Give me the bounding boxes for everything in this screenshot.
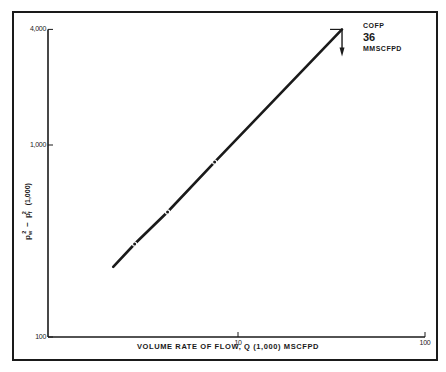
down-arrow-icon <box>340 47 345 56</box>
annotation-line2: 36 <box>363 31 375 43</box>
data-series <box>113 29 342 266</box>
y-tick-label: 4,000 <box>30 25 46 32</box>
ticks: 1001,0004,00010100 <box>30 25 431 346</box>
x-axis-label: VOLUME RATE OF FLOW, Q (1,000) MSCFPD <box>137 342 319 351</box>
y-label-sub-f: f <box>27 211 33 213</box>
data-point-marker <box>213 161 216 164</box>
data-point-marker <box>166 210 169 213</box>
outer-frame <box>13 12 437 360</box>
annotation-line3: MMSCFPD <box>363 45 402 52</box>
data-line <box>113 29 342 266</box>
chart-svg: 1001,0004,00010100 COFP 36 MMSCFPD pw2−p… <box>0 0 446 372</box>
y-label-minus: − <box>23 222 32 227</box>
chart-container: 1001,0004,00010100 COFP 36 MMSCFPD pw2−p… <box>0 0 446 372</box>
data-point-marker <box>133 243 136 246</box>
x-tick-label: 100 <box>420 339 431 346</box>
y-label-sub-w: w <box>27 230 33 236</box>
y-label-units: (1,000) <box>24 183 32 205</box>
axes <box>48 29 425 337</box>
y-label-sup1: 2 <box>21 231 27 234</box>
y-label-sup2: 2 <box>21 211 27 214</box>
y-axis-label: pw2−pf2(1,000) <box>21 183 33 240</box>
svg-text:pw2−pf2(1,000): pw2−pf2(1,000) <box>21 183 33 240</box>
y-tick-label: 1,000 <box>30 141 46 148</box>
annotation-line1: COFP <box>363 22 384 29</box>
cofp-annotation: COFP 36 MMSCFPD <box>330 22 402 56</box>
y-tick-label: 100 <box>35 333 46 340</box>
